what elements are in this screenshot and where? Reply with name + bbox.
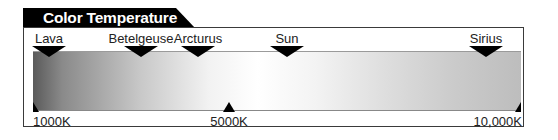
marker-down-triangle-icon: [270, 46, 304, 57]
temperature-gradient-bar: [33, 51, 521, 111]
marker-down-triangle-icon: [469, 46, 503, 57]
marker-down-triangle-icon: [181, 46, 215, 57]
star-label-betelgeuse: Betelgeuse: [108, 31, 173, 46]
title-tab: Color Temperature: [23, 8, 195, 28]
tick-up-triangle-icon: [515, 102, 521, 112]
tick-up-triangle-icon: [223, 102, 235, 112]
scale-label-1000k: 1000K: [33, 114, 71, 129]
scale-label-10000k: 10,000K: [474, 114, 522, 129]
scale-label-5000k: 5000K: [210, 114, 248, 129]
tick-up-triangle-icon: [33, 102, 39, 112]
marker-down-triangle-icon: [32, 46, 66, 57]
star-label-lava: Lava: [35, 31, 63, 46]
diagram-title: Color Temperature: [43, 9, 177, 27]
marker-down-triangle-icon: [124, 46, 158, 57]
star-label-arcturus: Arcturus: [174, 31, 222, 46]
star-label-sun: Sun: [275, 31, 298, 46]
star-label-sirius: Sirius: [470, 31, 503, 46]
